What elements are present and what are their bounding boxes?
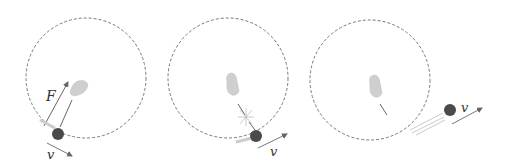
motion-streak-2 [236,138,252,142]
diagram-canvas [0,0,506,168]
velocity-label-1: v [47,148,54,161]
panel-2 [168,18,288,148]
snap-burst-icon [238,108,254,126]
string-1 [60,100,72,127]
panel-1 [26,18,146,156]
hand-icon-2 [227,73,240,95]
ball-1 [52,128,64,140]
force-label: F [46,89,56,103]
string-2 [238,104,245,115]
hand-icon-1 [70,81,88,96]
string-3 [380,104,387,115]
circular-motion-diagram: F v v v [0,0,506,168]
ball-2 [250,130,262,142]
hand-icon-3 [370,75,383,97]
velocity-label-3: v [461,101,468,114]
motion-streak-3 [410,113,445,135]
motion-streak-1 [40,120,55,128]
circular-path-1 [26,18,146,138]
panel-3 [310,20,482,140]
ball-3 [444,104,456,116]
velocity-label-2: v [270,145,277,158]
string-2b [249,122,255,130]
